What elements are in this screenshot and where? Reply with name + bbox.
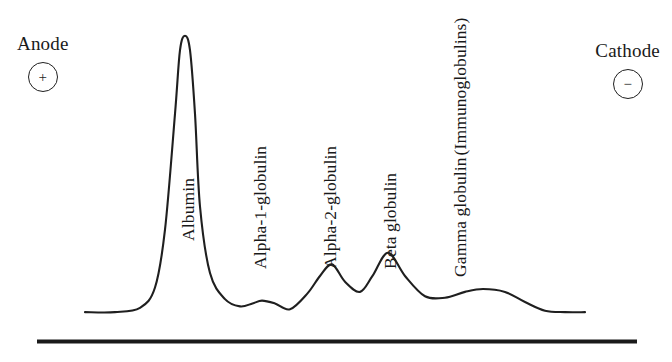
densitometry-curve [85,36,585,313]
electrophoresis-trace-svg [0,0,672,362]
electrophoresis-figure: Anode + Cathode − Albumin Alpha-1-globul… [0,0,672,362]
